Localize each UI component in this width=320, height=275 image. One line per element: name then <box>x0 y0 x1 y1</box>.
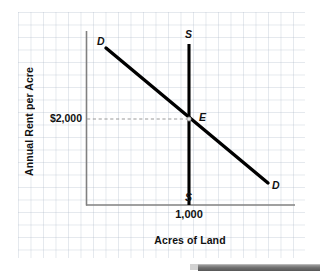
supply-curve-label-top: S <box>185 29 192 40</box>
supply-curve-label-bottom: S <box>185 192 192 203</box>
horizontal-scrollbar-thumb[interactable] <box>198 264 320 271</box>
equilibrium-point-marker <box>187 117 191 121</box>
supply-demand-figure: Annual Rent per Acre Acres of Land $2,00… <box>0 0 320 275</box>
demand-curve-label-top: D <box>97 36 105 47</box>
x-axis-title: Acres of Land <box>86 235 294 246</box>
scrollbar-track-cap[interactable] <box>190 264 198 270</box>
demand-curve-label-bottom: D <box>272 180 280 191</box>
demand-curve <box>106 48 268 183</box>
y-axis-tick-label-price: $2,000 <box>30 113 82 124</box>
equilibrium-point-label: E <box>199 112 206 123</box>
x-axis-tick-label-quantity: 1,000 <box>139 209 239 220</box>
